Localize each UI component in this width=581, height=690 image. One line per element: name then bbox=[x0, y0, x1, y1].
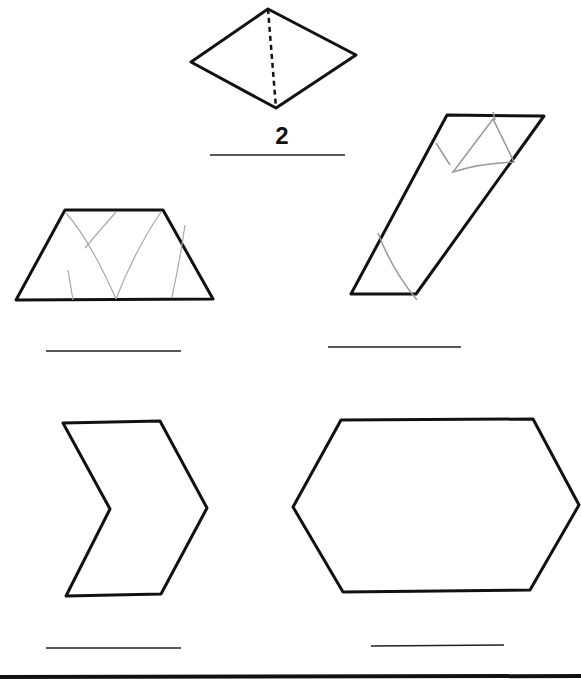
hexagon-shape bbox=[293, 419, 579, 592]
trapezoid-shape bbox=[16, 210, 213, 300]
answer-line-hexagon[interactable] bbox=[371, 645, 504, 646]
dashed-divider-line bbox=[268, 9, 276, 108]
rhombus-answer-text: 2 bbox=[262, 122, 302, 150]
worksheet-canvas bbox=[0, 0, 581, 690]
bottom-rule bbox=[0, 676, 581, 677]
parallelogram-shape bbox=[351, 112, 544, 300]
pencil-marks bbox=[66, 212, 185, 300]
chevron-shape bbox=[63, 421, 207, 596]
rhombus-shape bbox=[191, 9, 356, 108]
